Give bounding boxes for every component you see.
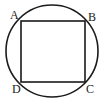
vertex-label-a: A <box>10 9 19 21</box>
vertex-label-c: C <box>86 83 94 95</box>
vertex-label-d: D <box>12 83 21 95</box>
inscribed-square-shape <box>21 21 85 82</box>
geometry-figure: A B C D <box>0 0 104 104</box>
vertex-label-b: B <box>88 11 96 23</box>
